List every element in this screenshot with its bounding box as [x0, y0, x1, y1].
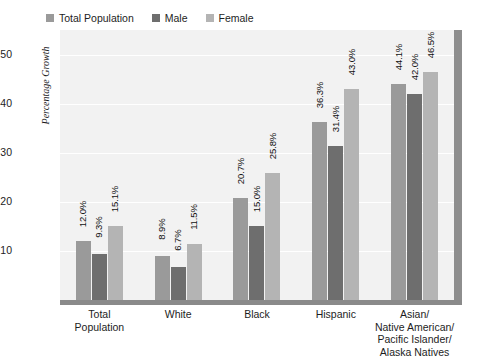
- y-axis-tick-50: 50: [0, 48, 12, 60]
- bar[interactable]: 8.9%: [155, 256, 170, 300]
- bar[interactable]: 6.7%: [171, 267, 186, 300]
- y-axis-title: Percentage Growth: [40, 11, 51, 161]
- x-axis-category-labels: TotalPopulationWhiteBlackHispanicAsian/N…: [60, 308, 462, 359]
- bar-value-label: 36.3%: [315, 82, 325, 108]
- x-axis-label-line: Alaska Natives: [361, 346, 468, 359]
- bar[interactable]: 42.0%: [407, 94, 422, 300]
- y-axis-tick-20: 20: [0, 195, 12, 207]
- bar-value-label: 8.9%: [157, 219, 167, 240]
- bar-value-label: 43.0%: [347, 49, 357, 75]
- bar-value-label: 9.3%: [94, 217, 104, 238]
- bar-value-label: 46.5%: [426, 32, 436, 58]
- bar[interactable]: 43.0%: [344, 89, 359, 300]
- bar[interactable]: 11.5%: [187, 244, 202, 300]
- legend-label-total-population: Total Population: [59, 13, 134, 24]
- bar-value-label: 6.7%: [173, 229, 183, 250]
- bar-value-label: 11.5%: [189, 204, 199, 230]
- bar-value-label: 31.4%: [331, 106, 341, 132]
- bar-group: 44.1%42.0%46.5%: [375, 30, 454, 300]
- bar-value-label: 44.1%: [394, 43, 404, 69]
- legend-label-male: Male: [165, 13, 188, 24]
- bar[interactable]: 25.8%: [265, 173, 280, 300]
- bar[interactable]: 31.4%: [328, 146, 343, 300]
- bar-group: 8.9%6.7%11.5%: [139, 30, 218, 300]
- legend-item-male: Male: [152, 13, 188, 24]
- plot-bottom-axis: [60, 300, 462, 305]
- legend-swatch-female: [206, 14, 214, 22]
- legend-item-female: Female: [206, 13, 254, 24]
- bar-value-label: 15.1%: [110, 186, 120, 212]
- legend-item-total-population: Total Population: [46, 13, 134, 24]
- bar-group: 36.3%31.4%43.0%: [296, 30, 375, 300]
- bar[interactable]: 46.5%: [423, 72, 438, 300]
- legend-swatch-male: [152, 14, 160, 22]
- x-axis-label-line: Population: [46, 321, 153, 334]
- bar-value-label: 42.0%: [410, 54, 420, 80]
- x-axis-label-line: Asian/: [361, 308, 468, 321]
- plot-area: 12.0%9.3%15.1%8.9%6.7%11.5%20.7%15.0%25.…: [60, 30, 462, 305]
- y-axis-tick-10: 10: [0, 244, 12, 256]
- bar-group: 12.0%9.3%15.1%: [60, 30, 139, 300]
- bar[interactable]: 12.0%: [76, 241, 91, 300]
- bar[interactable]: 15.1%: [108, 226, 123, 300]
- bar[interactable]: 9.3%: [92, 254, 107, 300]
- legend-label-female: Female: [219, 13, 254, 24]
- bar-value-label: 20.7%: [236, 158, 246, 184]
- bar[interactable]: 36.3%: [312, 122, 327, 300]
- bar[interactable]: 20.7%: [233, 198, 248, 300]
- chart-legend: Total Population Male Female: [46, 10, 272, 26]
- y-axis-tick-30: 30: [0, 146, 12, 158]
- x-axis-label: Asian/Native American/Pacific Islander/A…: [361, 308, 468, 358]
- bar[interactable]: 15.0%: [249, 226, 264, 300]
- x-axis-label-line: Native American/: [361, 321, 468, 334]
- bar[interactable]: 44.1%: [391, 84, 406, 300]
- bar-value-label: 12.0%: [78, 201, 88, 227]
- bar-value-label: 15.0%: [252, 186, 262, 212]
- plot-right-wall: [454, 30, 462, 305]
- bar-value-label: 25.8%: [268, 133, 278, 159]
- y-axis-tick-40: 40: [0, 97, 12, 109]
- bar-group: 20.7%15.0%25.8%: [218, 30, 297, 300]
- x-axis-label-line: Pacific Islander/: [361, 333, 468, 346]
- bars-layer: 12.0%9.3%15.1%8.9%6.7%11.5%20.7%15.0%25.…: [60, 30, 454, 300]
